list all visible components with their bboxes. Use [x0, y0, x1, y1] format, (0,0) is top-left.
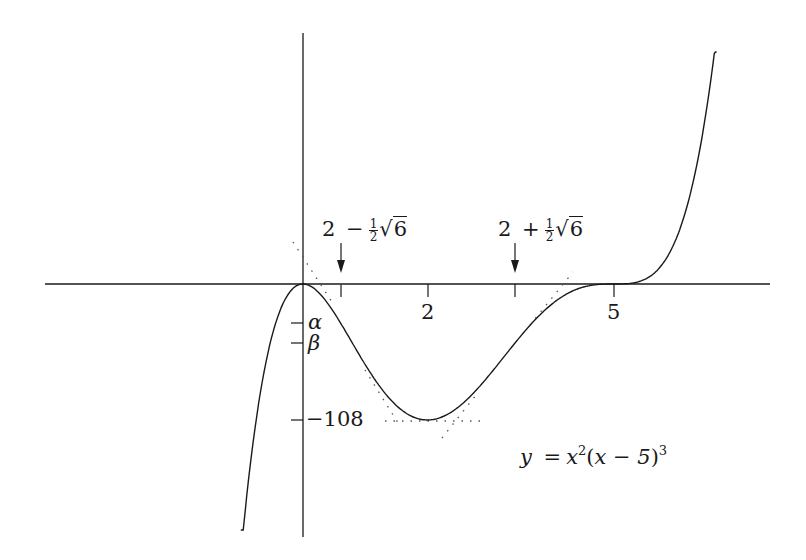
function-graph — [0, 0, 806, 560]
y-tick-label-minus-108: −108 — [306, 409, 364, 430]
sqrt-symbol: √6 — [555, 219, 583, 240]
sqrt-symbol: √6 — [379, 219, 407, 240]
equation-label: y =x2(x − 5)3 — [520, 447, 667, 468]
x-tick-label-2: 2 — [421, 302, 434, 323]
fraction-half: 12 — [369, 218, 379, 243]
x-tick-label-5: 5 — [607, 302, 620, 323]
arrow-right-inflection — [511, 243, 519, 273]
fraction-half: 12 — [545, 218, 555, 243]
arrow-label-left: 2 −12√6 — [322, 218, 407, 243]
y-tick-label-alpha: α — [308, 312, 322, 333]
arrow-label-right: 2 +12√6 — [498, 218, 583, 243]
y-tick-label-beta: β — [308, 333, 320, 354]
arrow-left-inflection — [337, 243, 345, 273]
